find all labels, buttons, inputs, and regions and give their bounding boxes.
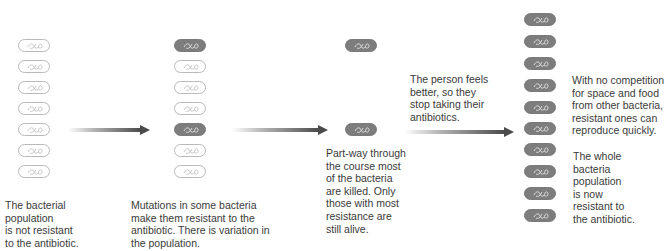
bacterium-resistant-icon <box>524 57 556 70</box>
arrow-right-icon <box>68 125 150 135</box>
bacterium-susceptible-icon <box>18 144 50 157</box>
bacterium-resistant-icon <box>174 123 206 136</box>
bacterium-resistant-icon <box>524 101 556 114</box>
arrow-right-icon <box>404 127 514 137</box>
bacterium-susceptible-icon <box>18 39 50 52</box>
stage-4-caption-top: With no competition for space and food f… <box>572 74 664 137</box>
bacterium-resistant-icon <box>524 35 556 48</box>
stage-4-caption-bottom: The whole bacteria population is now res… <box>573 150 635 226</box>
bacterium-susceptible-icon <box>18 123 50 136</box>
antibiotic-resistance-diagram: The bacterial population is not resistan… <box>0 0 669 251</box>
stage-1-caption: The bacterial population is not resistan… <box>5 199 79 249</box>
bacterium-susceptible-icon <box>18 81 50 94</box>
bacterium-susceptible-icon <box>18 165 50 178</box>
stage-2-population <box>174 0 208 190</box>
bacterium-susceptible-icon <box>18 60 50 73</box>
bacterium-susceptible-icon <box>174 144 206 157</box>
bacterium-susceptible-icon <box>18 102 50 115</box>
stage-4-population <box>524 0 558 251</box>
bacterium-resistant-icon <box>345 123 377 136</box>
bacterium-resistant-icon <box>524 122 556 135</box>
bacterium-resistant-icon <box>524 187 556 200</box>
bacterium-resistant-icon <box>345 39 377 52</box>
bacterium-resistant-icon <box>524 143 556 156</box>
bacterium-resistant-icon <box>524 79 556 92</box>
bacterium-resistant-icon <box>524 209 556 222</box>
bacterium-resistant-icon <box>174 39 206 52</box>
bacterium-susceptible-icon <box>174 81 206 94</box>
bacterium-susceptible-icon <box>174 165 206 178</box>
bacterium-resistant-icon <box>524 165 556 178</box>
transition-caption: The person feels better, so they stop ta… <box>410 73 488 123</box>
bacterium-susceptible-icon <box>174 60 206 73</box>
arrow-right-icon <box>232 125 328 135</box>
stage-2-caption: Mutations in some bacteria make them res… <box>131 199 270 249</box>
bacterium-resistant-icon <box>524 13 556 26</box>
bacterium-susceptible-icon <box>174 102 206 115</box>
stage-1-population <box>18 0 52 190</box>
stage-3-caption: Part-way through the course most of the … <box>326 147 406 235</box>
